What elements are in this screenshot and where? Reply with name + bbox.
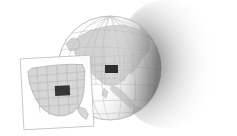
us-inset-panel	[20, 55, 94, 130]
inset-highlighted-state	[55, 85, 71, 96]
globe-illustration-svg	[0, 0, 237, 136]
globe-region-marker	[105, 65, 118, 73]
illustration-canvas: Globe with United States inset map Grays…	[0, 0, 237, 136]
